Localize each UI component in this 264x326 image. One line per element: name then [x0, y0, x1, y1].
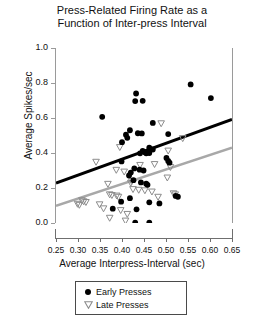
data-point-late	[106, 215, 113, 221]
data-point-early	[110, 206, 116, 212]
data-point-late	[151, 162, 158, 168]
y-tick-label: 1.0	[14, 43, 48, 52]
data-point-early	[134, 206, 140, 212]
legend-item-early-presses: Early Presses	[80, 285, 182, 298]
data-point-early	[131, 177, 137, 183]
data-point-late	[113, 167, 120, 173]
data-point-early	[132, 220, 138, 223]
series-early-presses	[99, 82, 213, 224]
data-point-late	[122, 218, 129, 223]
data-point-early	[126, 173, 132, 179]
x-tick	[78, 238, 79, 242]
x-tick-label: 0.65	[217, 245, 247, 255]
x-tick	[232, 238, 233, 242]
data-point-early	[208, 95, 214, 101]
data-point-late	[93, 159, 100, 165]
x-tick	[144, 238, 145, 242]
data-point-early	[127, 195, 133, 201]
data-point-early	[188, 82, 194, 88]
plot-canvas	[56, 48, 232, 223]
data-point-early	[118, 199, 124, 205]
data-point-early	[157, 201, 163, 207]
data-point-early	[139, 131, 145, 137]
x-tick	[166, 238, 167, 242]
data-point-late	[158, 121, 165, 127]
data-point-late	[142, 188, 149, 194]
filled-circle-icon	[80, 289, 96, 295]
y-tick	[51, 118, 55, 119]
data-point-late	[100, 206, 107, 212]
data-point-early	[124, 135, 130, 141]
data-point-early	[146, 220, 152, 223]
x-tick	[56, 238, 57, 242]
y-tick-label: 0.4	[14, 148, 48, 157]
y-tick	[51, 188, 55, 189]
data-point-early	[146, 199, 152, 205]
legend-label-early-presses: Early Presses	[96, 287, 152, 297]
data-point-late	[165, 148, 172, 154]
chart-figure: Press-Related Firing Rate as a Function …	[0, 0, 264, 326]
data-point-early	[133, 91, 139, 97]
data-point-late	[117, 208, 124, 214]
data-point-early	[99, 114, 105, 120]
data-point-late	[124, 211, 131, 217]
data-point-early	[165, 131, 171, 137]
data-point-early	[137, 150, 143, 156]
data-point-early	[150, 120, 156, 126]
x-axis-title: Average Interpress-Interval (sec)	[0, 258, 264, 269]
down-triangle-icon	[80, 301, 96, 309]
data-point-early	[145, 182, 151, 188]
y-tick-label: 0.0	[14, 218, 48, 227]
x-tick	[122, 238, 123, 242]
data-point-late	[135, 187, 142, 193]
data-point-late	[164, 175, 171, 181]
data-point-early	[175, 194, 181, 200]
plot-right-edge	[232, 48, 233, 223]
data-point-late	[96, 202, 103, 208]
plot-area	[56, 48, 232, 223]
x-tick	[100, 238, 101, 242]
x-tick	[188, 238, 189, 242]
data-point-early	[146, 150, 152, 156]
y-tick-label: 0.2	[14, 183, 48, 192]
data-point-late	[117, 145, 124, 151]
y-tick-label: 0.6	[14, 113, 48, 122]
trend-line	[56, 148, 232, 206]
data-point-early	[138, 180, 144, 186]
chart-title-line-2: Function of Inter-press Interval	[0, 17, 264, 30]
data-point-late	[155, 194, 162, 200]
legend-item-late-presses: Late Presses	[80, 298, 182, 311]
data-point-early	[119, 139, 125, 145]
chart-title: Press-Related Firing Rate as a Function …	[0, 4, 264, 30]
data-point-early	[132, 98, 138, 104]
chart-legend: Early Presses Late Presses	[75, 281, 187, 315]
x-tick	[210, 238, 211, 242]
y-tick-label: 0.8	[14, 78, 48, 87]
y-tick	[51, 223, 55, 224]
y-tick	[51, 48, 55, 49]
chart-title-line-1: Press-Related Firing Rate as a	[0, 4, 264, 17]
y-tick	[51, 153, 55, 154]
data-point-late	[105, 181, 112, 187]
data-point-early	[141, 168, 147, 174]
data-point-early	[140, 98, 146, 104]
data-point-early	[127, 127, 133, 133]
data-point-early	[119, 159, 125, 165]
data-point-early	[167, 160, 173, 166]
legend-label-late-presses: Late Presses	[96, 300, 149, 310]
y-tick	[51, 83, 55, 84]
